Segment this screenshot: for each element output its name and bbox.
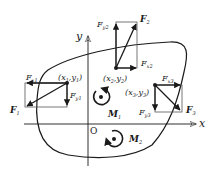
force1-fy-label: Fy1 bbox=[69, 91, 82, 102]
diagram-canvas: x y O (x1,y1) Fx1 Fy1 F1 (x2,y2) Fy2 Fx2… bbox=[0, 0, 217, 175]
y-axis-label: y bbox=[75, 30, 83, 43]
force3-resultant-label: F3 bbox=[185, 105, 196, 116]
force2-resultant-label: F2 bbox=[139, 14, 150, 25]
force1-resultant-arrow bbox=[27, 83, 67, 106]
force2-point-label: (x2,y2) bbox=[103, 74, 127, 84]
force3-resultant-arrow bbox=[155, 85, 180, 110]
force-group-3: (x3,y3) Fx3 Fy3 F3 bbox=[125, 74, 196, 119]
force2-fx-label: Fx2 bbox=[140, 59, 153, 69]
force3-application-point bbox=[153, 83, 157, 87]
rigid-body-outline bbox=[37, 42, 187, 158]
force2-application-point bbox=[114, 66, 118, 70]
force-group-1: (x1,y1) Fx1 Fy1 F1 bbox=[9, 73, 82, 116]
origin-label: O bbox=[90, 126, 97, 136]
force-diagram: x y O (x1,y1) Fx1 Fy1 F1 (x2,y2) Fy2 Fx2… bbox=[0, 0, 217, 175]
force1-point-label: (x1,y1) bbox=[58, 73, 82, 83]
force3-fy-label: Fy3 bbox=[138, 108, 151, 119]
force2-resultant-arrow bbox=[116, 24, 136, 68]
moment2-center-dot bbox=[112, 137, 116, 141]
moment-group-2: M2 bbox=[107, 131, 142, 147]
force1-resultant-label: F1 bbox=[9, 105, 20, 116]
force3-point-label: (x3,y3) bbox=[125, 88, 149, 98]
moment1-center-dot bbox=[99, 95, 103, 99]
moment2-label: M2 bbox=[128, 134, 142, 145]
force2-fy-label: Fy2 bbox=[96, 20, 109, 31]
moment-group-1: M1 bbox=[94, 89, 121, 120]
force3-fx-label: Fx3 bbox=[161, 74, 174, 84]
force-group-2: (x2,y2) Fy2 Fx2 F2 bbox=[96, 14, 153, 84]
x-axis-label: x bbox=[199, 117, 206, 130]
force1-fx-label: Fx1 bbox=[25, 73, 38, 83]
moment1-label: M1 bbox=[107, 109, 121, 120]
